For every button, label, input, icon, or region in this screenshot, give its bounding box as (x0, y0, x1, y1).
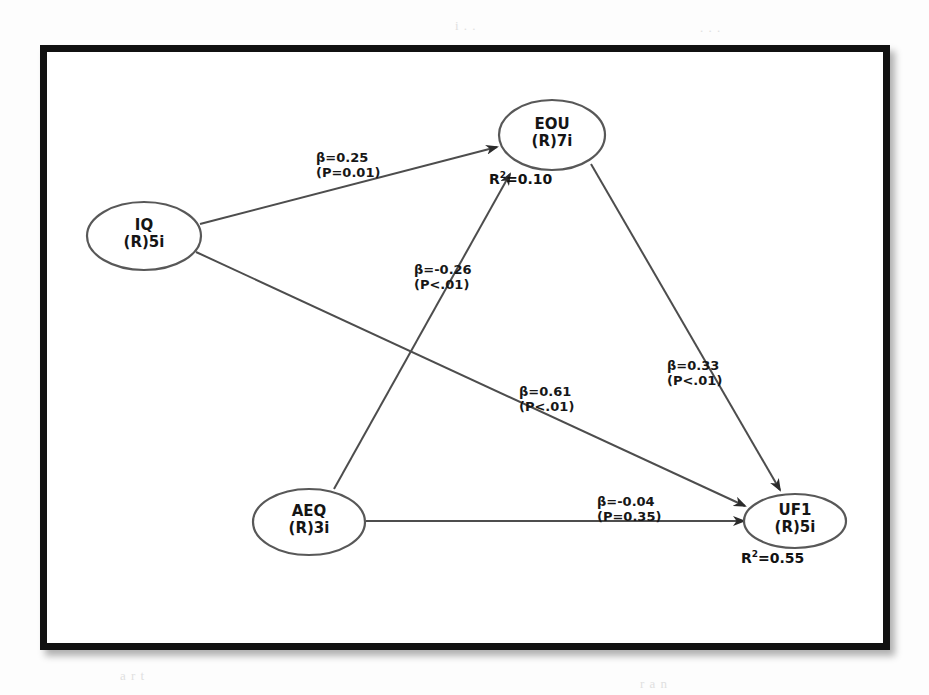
node-label-line2: (R)7i (492, 133, 612, 150)
edge-label-pvalue: (P<.01) (519, 399, 574, 414)
path-diagram-canvas (0, 0, 929, 695)
r-squared-symbol: R (741, 550, 752, 566)
r-squared-label-eou: R2=0.10 (489, 170, 552, 187)
edge-label-iq-uf1: β=0.61(P<.01) (519, 384, 574, 415)
node-label-uf1: UF1(R)5i (735, 502, 855, 536)
node-label-eou: EOU(R)7i (492, 116, 612, 150)
edge-label-pvalue: (P<.01) (667, 373, 722, 388)
r-squared-symbol: R (489, 171, 500, 187)
edge-lines-group (196, 147, 780, 521)
node-label-line2: (R)5i (735, 519, 855, 536)
node-label-line1: IQ (135, 216, 153, 234)
edge-eou-uf1 (591, 164, 780, 490)
edge-label-pvalue: (P=0.01) (316, 165, 380, 180)
edge-label-beta: β=0.61 (519, 384, 571, 399)
edge-label-beta: β=-0.04 (597, 494, 655, 509)
node-label-line1: EOU (534, 115, 569, 133)
edge-label-beta: β=-0.26 (414, 262, 472, 277)
node-label-aeq: AEQ(R)3i (249, 503, 369, 537)
node-ellipses-group (87, 100, 846, 555)
edge-label-aeq-eou: β=-0.26(P<.01) (414, 262, 472, 293)
edge-label-beta: β=0.33 (667, 358, 719, 373)
scanned-page: i . .. . .a r t. . .r a n IQ(R)5iEOU(R)7… (0, 0, 929, 695)
edge-label-aeq-uf1: β=-0.04(P=0.35) (597, 494, 661, 525)
edge-label-eou-uf1: β=0.33(P<.01) (667, 358, 722, 389)
node-label-line2: (R)3i (249, 520, 369, 537)
r-squared-value: =0.10 (506, 171, 552, 187)
node-label-iq: IQ(R)5i (84, 217, 204, 251)
node-label-line2: (R)5i (84, 234, 204, 251)
edge-aeq-eou (334, 174, 510, 489)
edge-label-pvalue: (P<.01) (414, 277, 472, 292)
r-squared-label-uf1: R2=0.55 (741, 549, 804, 566)
edge-label-iq-eou: β=0.25(P=0.01) (316, 150, 380, 181)
node-label-line1: UF1 (779, 501, 812, 519)
node-label-line1: AEQ (292, 502, 327, 520)
edge-label-beta: β=0.25 (316, 150, 368, 165)
r-squared-value: =0.55 (758, 550, 804, 566)
edge-label-pvalue: (P=0.35) (597, 509, 661, 524)
